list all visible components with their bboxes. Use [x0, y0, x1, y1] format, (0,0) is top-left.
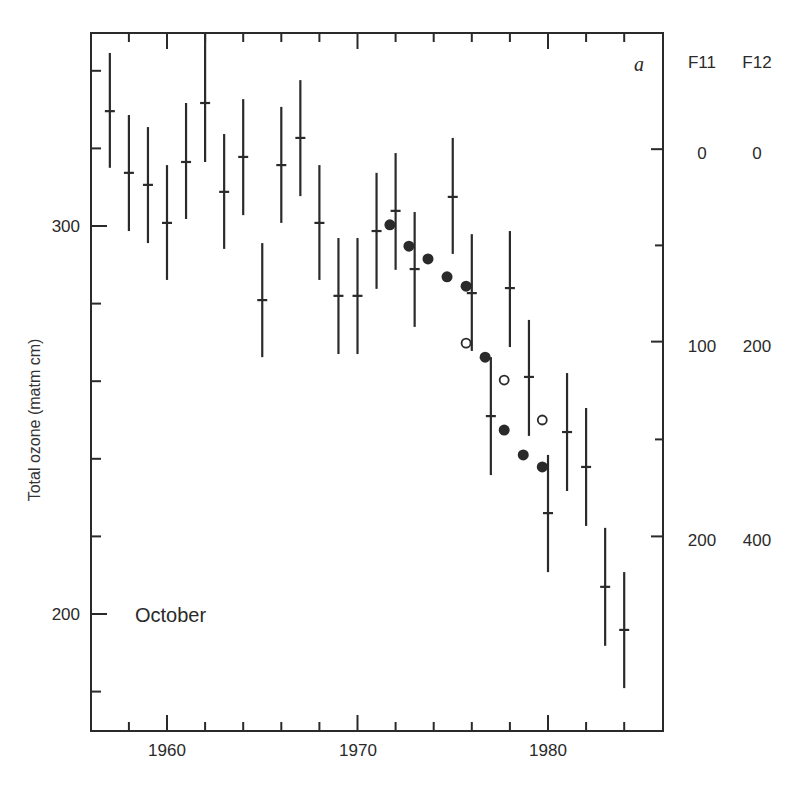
- y-tick-label-300: 300: [52, 217, 80, 236]
- data-point-errorbar: [276, 107, 286, 223]
- data-point-errorbar: [162, 165, 172, 280]
- data-point-errorbar: [600, 528, 610, 646]
- data-point-errorbar: [333, 238, 343, 354]
- data-point-errorbar: [543, 455, 553, 572]
- open-circle-point: [500, 376, 509, 385]
- right-label-f11-0: 0: [697, 144, 706, 163]
- right-axis-ticks: [651, 149, 663, 536]
- panel-label: a: [634, 53, 644, 75]
- data-point-errorbar: [391, 153, 401, 270]
- data-point-errorbar: [581, 408, 591, 526]
- data-point-errorbar: [467, 234, 477, 351]
- data-point-errorbar: [486, 357, 496, 475]
- x-tick-label-1980: 1980: [529, 741, 567, 760]
- data-point-errorbar: [314, 165, 324, 280]
- data-point-errorbar: [524, 320, 534, 436]
- x-axis-ticks: [129, 33, 624, 731]
- data-point-errorbar: [200, 33, 210, 162]
- filled-circle-point: [480, 352, 491, 363]
- data-point-errorbar: [238, 99, 248, 215]
- filled-circle-point: [499, 425, 510, 436]
- filled-circle-point: [518, 449, 529, 460]
- data-point-errorbar: [219, 134, 229, 249]
- right-label-f11-100: 100: [688, 337, 716, 356]
- ozone-errorbar-series: [105, 33, 629, 688]
- y-tick-label-200: 200: [52, 605, 80, 624]
- plot-frame: [91, 33, 663, 731]
- data-point-errorbar: [295, 80, 305, 196]
- open-circle-point: [538, 416, 547, 425]
- open-circle-point: [462, 339, 471, 348]
- data-point-errorbar: [143, 127, 153, 243]
- right-label-f12-200: 200: [743, 337, 771, 356]
- data-point-errorbar: [353, 238, 363, 354]
- right-axis-header-f12: F12: [742, 53, 771, 72]
- y-axis-ticks: [91, 71, 107, 692]
- right-label-f11-200: 200: [688, 531, 716, 550]
- data-point-errorbar: [505, 231, 515, 347]
- x-tick-label-1970: 1970: [339, 741, 377, 760]
- data-point-errorbar: [124, 115, 134, 231]
- data-point-errorbar: [257, 243, 267, 357]
- month-annotation: October: [135, 604, 206, 626]
- right-label-f12-400: 400: [743, 531, 771, 550]
- filled-circle-point: [384, 219, 395, 230]
- right-label-f12-0: 0: [752, 144, 761, 163]
- open-circle-series: [462, 339, 547, 425]
- ozone-chart: 1960 1970 1980 300 200 Total ozone (matm…: [0, 0, 802, 795]
- data-point-errorbar: [410, 212, 420, 327]
- data-point-errorbar: [105, 53, 115, 168]
- data-point-errorbar: [181, 103, 191, 219]
- y-axis-title: Total ozone (matm cm): [26, 339, 43, 502]
- data-point-errorbar: [619, 572, 629, 688]
- filled-circle-point: [442, 271, 453, 282]
- filled-circle-point: [537, 461, 548, 472]
- x-tick-label-1960: 1960: [148, 741, 186, 760]
- filled-circle-point: [422, 253, 433, 264]
- right-axis-header-f11: F11: [688, 53, 716, 72]
- data-point-errorbar: [448, 138, 458, 254]
- filled-circle-point: [461, 281, 472, 292]
- data-point-errorbar: [372, 173, 382, 289]
- data-point-errorbar: [562, 373, 572, 491]
- filled-circle-point: [403, 241, 414, 252]
